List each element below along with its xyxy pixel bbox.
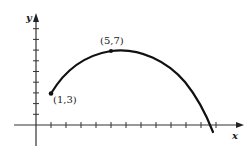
y-axis-arrow-icon — [33, 13, 39, 22]
point-a-label: (1,3) — [53, 94, 77, 105]
point-b-label: (5,7) — [100, 35, 124, 46]
chart: (1,3) (5,7) x y — [0, 0, 252, 155]
x-axis-arrow-icon — [236, 122, 244, 128]
curve-line — [51, 50, 213, 132]
y-axis-label: y — [25, 12, 33, 23]
point-b-marker — [109, 49, 113, 53]
x-axis-label: x — [231, 130, 239, 141]
